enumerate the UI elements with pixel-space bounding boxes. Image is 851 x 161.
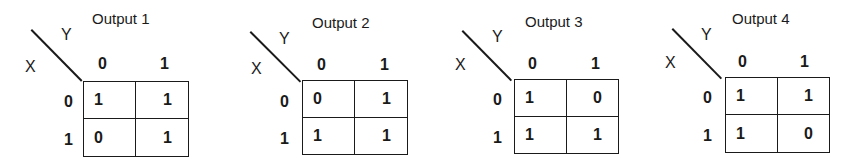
- col-variable-label: Y: [279, 30, 290, 48]
- row-variable-label: X: [455, 56, 466, 74]
- cell-x0-y1: 1: [355, 81, 407, 118]
- row-header-0: 0: [64, 93, 73, 111]
- kmap-grid: 1 1 1 0: [725, 77, 830, 153]
- cell-x1-y0: 1: [303, 118, 355, 155]
- cell-x1-y0: 1: [726, 115, 778, 152]
- kmap-grid: 1 1 0 1: [83, 81, 189, 157]
- kmap-grid: 1 0 1 1: [514, 79, 619, 154]
- row-header-1: 1: [280, 130, 289, 148]
- cell-x0-y0: 1: [515, 80, 567, 117]
- cell-x0-y1: 0: [567, 80, 619, 117]
- cell-x1-y0: 0: [84, 119, 136, 156]
- col-header-1: 1: [380, 56, 389, 74]
- cell-x0-y0: 0: [303, 81, 355, 118]
- col-header-0: 0: [528, 55, 537, 73]
- row-header-0: 0: [493, 91, 502, 109]
- corner-divider-line: [672, 28, 722, 79]
- kmap-grid: 0 1 1 1: [302, 80, 408, 155]
- corner-divider-line: [462, 30, 512, 81]
- cell-x1-y1: 1: [355, 118, 407, 155]
- map-title: Output 3: [525, 13, 583, 30]
- col-header-0: 0: [98, 55, 107, 73]
- karnaugh-map-output-4: Output 4 Y X 0 1 0 1 1 1 1 0: [640, 0, 850, 161]
- row-header-0: 0: [703, 89, 712, 107]
- col-header-1: 1: [800, 53, 809, 71]
- cell-x0-y1: 1: [778, 78, 830, 115]
- karnaugh-map-output-1: Output 1 Y X 0 1 0 1 1 1 0 1: [0, 0, 210, 161]
- row-header-1: 1: [64, 131, 73, 149]
- cell-x0-y1: 1: [136, 82, 188, 119]
- row-header-1: 1: [703, 127, 712, 145]
- row-header-1: 1: [493, 129, 502, 147]
- col-header-0: 0: [317, 56, 326, 74]
- cell-x1-y0: 1: [515, 117, 567, 154]
- row-header-0: 0: [280, 93, 289, 111]
- map-title: Output 2: [312, 14, 370, 31]
- col-header-0: 0: [738, 53, 747, 71]
- cell-x1-y1: 0: [778, 115, 830, 152]
- karnaugh-map-output-3: Output 3 Y X 0 1 0 1 1 0 1 1: [430, 0, 640, 161]
- cell-x1-y1: 1: [136, 119, 188, 156]
- corner-divider-line: [31, 29, 83, 81]
- map-title: Output 1: [92, 10, 150, 27]
- col-header-1: 1: [591, 55, 600, 73]
- col-header-1: 1: [160, 55, 169, 73]
- row-variable-label: X: [25, 58, 36, 76]
- row-variable-label: X: [665, 54, 676, 72]
- cell-x0-y0: 1: [726, 78, 778, 115]
- row-variable-label: X: [251, 60, 262, 78]
- map-title: Output 4: [732, 10, 790, 27]
- col-variable-label: Y: [701, 26, 712, 44]
- cell-x0-y0: 1: [84, 82, 136, 119]
- col-variable-label: Y: [492, 28, 503, 46]
- col-variable-label: Y: [61, 26, 72, 44]
- karnaugh-map-output-2: Output 2 Y X 0 1 0 1 0 1 1 1: [215, 0, 425, 161]
- cell-x1-y1: 1: [567, 117, 619, 154]
